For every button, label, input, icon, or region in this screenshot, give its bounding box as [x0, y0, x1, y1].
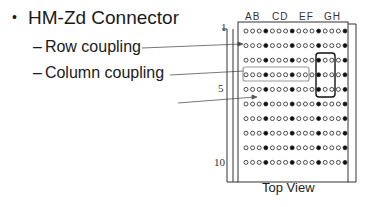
- signal-pin: [251, 131, 255, 135]
- ground-pin: [290, 146, 294, 150]
- signal-pin: [297, 73, 301, 77]
- signal-pin: [244, 102, 248, 106]
- ground-pin: [264, 117, 268, 121]
- ground-pin: [343, 102, 347, 106]
- signal-pin: [244, 58, 248, 62]
- signal-pin: [277, 160, 281, 164]
- signal-pin: [330, 131, 334, 135]
- signal-pin: [251, 29, 255, 33]
- signal-pin: [303, 102, 307, 106]
- signal-pin: [310, 117, 314, 121]
- ground-pin: [264, 58, 268, 62]
- ground-pin: [343, 73, 347, 77]
- signal-pin: [257, 160, 261, 164]
- signal-pin: [297, 87, 301, 91]
- signal-pin: [270, 73, 274, 77]
- signal-pin: [336, 117, 340, 121]
- signal-pin: [330, 146, 334, 150]
- row-coupling-pointer: [142, 44, 241, 48]
- signal-pin: [251, 87, 255, 91]
- signal-pin: [277, 117, 281, 121]
- signal-pin: [277, 87, 281, 91]
- signal-pin: [284, 87, 288, 91]
- signal-pin: [270, 117, 274, 121]
- signal-pin: [277, 102, 281, 106]
- signal-pin: [310, 73, 314, 77]
- ground-pin: [290, 102, 294, 106]
- signal-pin: [277, 131, 281, 135]
- signal-pin: [251, 73, 255, 77]
- signal-pin: [277, 29, 281, 33]
- ground-pin: [317, 58, 321, 62]
- signal-pin: [310, 29, 314, 33]
- column-header-ab: AB: [245, 11, 260, 22]
- signal-pin: [257, 117, 261, 121]
- row-label-5: 5: [218, 82, 224, 94]
- ground-pin: [317, 87, 321, 91]
- signal-pin: [330, 73, 334, 77]
- signal-pin: [257, 146, 261, 150]
- signal-pin: [303, 44, 307, 48]
- signal-pin: [336, 58, 340, 62]
- signal-pin: [303, 146, 307, 150]
- ground-pin: [317, 117, 321, 121]
- signal-pin: [336, 44, 340, 48]
- signal-pin: [284, 29, 288, 33]
- signal-pin: [257, 58, 261, 62]
- signal-pin: [244, 44, 248, 48]
- ground-pin: [343, 29, 347, 33]
- signal-pin: [270, 87, 274, 91]
- signal-pin: [284, 131, 288, 135]
- column-header-gh: GH: [324, 11, 341, 22]
- signal-pin: [284, 117, 288, 121]
- ground-pin: [264, 73, 268, 77]
- signal-pin: [244, 146, 248, 150]
- signal-pin: [323, 102, 327, 106]
- row-label-10: 10: [214, 156, 225, 168]
- ground-pin: [264, 44, 268, 48]
- signal-pin: [310, 87, 314, 91]
- signal-pin: [251, 160, 255, 164]
- ground-pin: [317, 102, 321, 106]
- ground-pin: [290, 29, 294, 33]
- signal-pin: [284, 160, 288, 164]
- signal-pin: [330, 29, 334, 33]
- ground-pin: [343, 160, 347, 164]
- ground-pin: [343, 87, 347, 91]
- ground-pin: [290, 160, 294, 164]
- signal-pin: [310, 44, 314, 48]
- signal-pin: [303, 58, 307, 62]
- ground-pin: [317, 131, 321, 135]
- signal-pin: [244, 131, 248, 135]
- signal-pin: [336, 131, 340, 135]
- signal-pin: [297, 117, 301, 121]
- signal-pin: [244, 160, 248, 164]
- signal-pin: [270, 146, 274, 150]
- connector-frame: [222, 22, 356, 182]
- ground-pin: [290, 73, 294, 77]
- signal-pin: [244, 29, 248, 33]
- signal-pin: [251, 44, 255, 48]
- ground-pin: [290, 58, 294, 62]
- signal-pin: [323, 131, 327, 135]
- signal-pin: [257, 44, 261, 48]
- signal-pin: [270, 58, 274, 62]
- caption-top-view: Top View: [262, 180, 315, 195]
- signal-pin: [284, 102, 288, 106]
- signal-pin: [303, 87, 307, 91]
- signal-pin: [323, 87, 327, 91]
- ground-pin: [264, 102, 268, 106]
- signal-pin: [284, 44, 288, 48]
- extra-pointer: [178, 97, 255, 103]
- column-header-cd: CD: [272, 11, 288, 22]
- ground-pin: [264, 87, 268, 91]
- ground-pin: [264, 160, 268, 164]
- signal-pin: [336, 102, 340, 106]
- signal-pin: [257, 87, 261, 91]
- ground-pin: [264, 146, 268, 150]
- ground-pin: [290, 117, 294, 121]
- signal-pin: [310, 146, 314, 150]
- signal-pin: [310, 160, 314, 164]
- ground-pin: [343, 44, 347, 48]
- signal-pin: [330, 160, 334, 164]
